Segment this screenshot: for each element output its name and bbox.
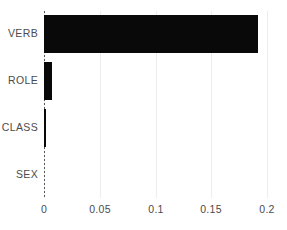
bar-verb — [44, 15, 258, 53]
x-tick-label-0.2: 0.2 — [259, 203, 275, 215]
y-axis-label-class: CLASS — [2, 121, 38, 133]
x-tick-label-0: 0 — [41, 203, 47, 215]
plot-area — [44, 11, 267, 198]
x-tick-label-0.05: 0.05 — [89, 203, 111, 215]
x-tick-label-0.1: 0.1 — [148, 203, 164, 215]
y-axis-label-role: ROLE — [8, 74, 38, 86]
bar-role — [44, 62, 52, 100]
y-axis-label-sex: SEX — [16, 168, 38, 180]
bar-class — [44, 109, 46, 147]
bar-chart: VERB ROLE CLASS SEX 0 0.05 0.1 0.15 0.2 — [0, 0, 287, 230]
y-axis-label-verb: VERB — [8, 27, 38, 39]
y-axis-label-group: VERB ROLE CLASS SEX — [0, 11, 38, 198]
x-tick-label-0.15: 0.15 — [200, 203, 222, 215]
gridline-0.2 — [267, 11, 268, 198]
